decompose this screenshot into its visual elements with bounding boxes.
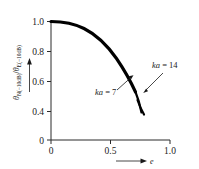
x-axis-ticks — [51, 140, 170, 144]
y-tick-label-1: 1.0 — [32, 17, 44, 27]
annotation-ka-7: ka = 7 — [95, 87, 116, 97]
annotation-ka-7-italic: ka — [95, 87, 103, 97]
annotation-leader-ka-14 — [143, 73, 163, 93]
y-tick-label-5: 0 — [39, 136, 44, 146]
y-tick-label-4: 0.4 — [32, 107, 44, 117]
y-axis-label-sub-1: N(−10dB) — [16, 73, 23, 96]
annotation-ka-14: ka = 14 — [152, 60, 178, 70]
x-axis-label: e — [150, 157, 154, 166]
data-curve-main — [51, 22, 136, 93]
y-axis-label: θN(−10dB)/θE(−10dB) — [12, 45, 23, 100]
x-tick-label-3: 1.0 — [164, 146, 176, 156]
y-axis-label-sub-2: E(−10dB) — [16, 45, 23, 67]
y-tick-label-3: 0.6 — [32, 77, 44, 87]
axis-spine — [51, 21, 170, 140]
y-axis-label-group: θN(−10dB)/θE(−10dB) — [12, 45, 23, 100]
chart-canvas: 1.0 0.8 0.6 0.4 0 0 0.5 1.0 — [0, 0, 199, 169]
x-tick-label-1: 0 — [49, 146, 54, 156]
chart-figure: 1.0 0.8 0.6 0.4 0 0 0.5 1.0 — [0, 0, 199, 169]
y-tick-label-2: 0.8 — [32, 47, 44, 57]
y-axis-ticks — [47, 22, 51, 141]
x-axis-direction-arrow-icon — [116, 159, 147, 164]
annotation-ka-7-value: = 7 — [103, 87, 116, 97]
x-tick-label-2: 0.5 — [105, 146, 117, 156]
annotation-ka-14-value: = 14 — [160, 60, 178, 70]
annotation-ka-14-italic: ka — [152, 60, 160, 70]
